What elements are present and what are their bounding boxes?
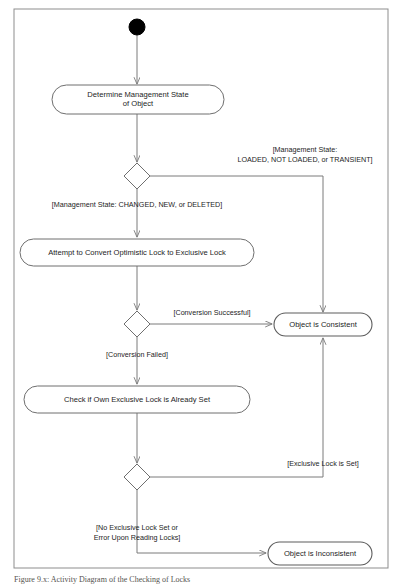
node-label-check-own-lock: Check if Own Exclusive Lock is Already S… (64, 395, 211, 404)
node-object-consistent: Object is Consistent (274, 313, 372, 336)
initial-node-circle (129, 19, 145, 35)
node-attempt-convert: Attempt to Convert Optimistic Lock to Ex… (20, 239, 254, 266)
activity-diagram: Determine Management Stateof ObjectAttem… (0, 0, 403, 584)
node-initial (129, 19, 145, 35)
node-determine-state: Determine Management Stateof Object (52, 85, 224, 114)
guard-label-no-exclusive-lock-to-object-inconsistent: [No Exclusive Lock Set orError Upon Read… (94, 523, 181, 542)
node-label-attempt-convert: Attempt to Convert Optimistic Lock to Ex… (48, 248, 226, 257)
node-label-object-consistent: Object is Consistent (289, 320, 357, 329)
node-label-object-inconsistent: Object is Inconsistent (284, 549, 357, 558)
guard-label-conversion-failed-to-check-own-lock: [Conversion Failed] (106, 350, 168, 359)
guard-label-exclusive-lock-is-set-to-object-consistent: [Exclusive Lock is Set] (287, 459, 359, 468)
figure-caption: Figure 9.x: Activity Diagram of the Chec… (14, 575, 394, 584)
node-check-own-lock: Check if Own Exclusive Lock is Already S… (24, 386, 250, 413)
guard-label-conversion-successful-to-object-consistent: [Conversion Successful] (173, 308, 250, 317)
guard-label-decision-state-to-attempt-convert: [Management State: CHANGED, NEW, or DELE… (52, 200, 223, 209)
node-object-inconsistent: Object is Inconsistent (268, 542, 372, 565)
figure-root: Determine Management Stateof ObjectAttem… (0, 0, 403, 584)
